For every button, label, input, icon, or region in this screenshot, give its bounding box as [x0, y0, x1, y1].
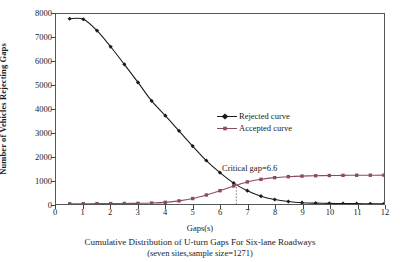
y-axis-tick-labels: 010002000300040005000600070008000	[16, 13, 52, 205]
data-point-marker	[259, 178, 262, 181]
data-point-marker	[245, 189, 249, 193]
x-axis-tick-labels: 0123456789101112	[55, 206, 385, 220]
x-axis-title: Gaps(s)	[0, 224, 400, 234]
y-tick-label: 5000	[18, 81, 52, 90]
x-tick-label: 9	[291, 208, 315, 217]
data-point-marker	[355, 174, 358, 177]
data-point-marker	[287, 175, 290, 178]
critical-gap-annotation: Critical gap=6.6	[222, 164, 277, 173]
chart-legend: Rejected curve Accepted curve	[217, 110, 292, 135]
data-point-marker	[81, 17, 85, 21]
legend-label-accepted: Accepted curve	[239, 122, 292, 134]
data-point-marker	[123, 202, 126, 204]
legend-item-accepted: Accepted curve	[217, 122, 292, 134]
y-tick-label: 3000	[18, 129, 52, 138]
data-point-marker	[68, 202, 71, 204]
data-point-marker	[82, 202, 85, 204]
x-tick-label: 4	[153, 208, 177, 217]
data-point-marker	[68, 17, 72, 21]
data-point-marker	[164, 201, 167, 204]
x-tick-label: 3	[126, 208, 150, 217]
data-point-marker	[259, 194, 263, 198]
data-point-marker	[246, 180, 249, 183]
data-point-marker	[286, 199, 290, 203]
plot-canvas	[56, 14, 384, 204]
data-point-marker	[382, 202, 384, 204]
chart-figure: Number of Vehicles Rejecting Gaps 010002…	[0, 0, 400, 262]
figure-caption: Cumulative Distribution of U-turn Gaps F…	[0, 236, 400, 260]
data-point-marker	[109, 202, 112, 204]
x-tick-label: 12	[373, 208, 397, 217]
data-point-marker	[314, 201, 318, 204]
x-tick-label: 7	[236, 208, 260, 217]
y-tick-label: 2000	[18, 153, 52, 162]
data-point-marker	[368, 202, 372, 204]
x-tick-label: 8	[263, 208, 287, 217]
y-axis-title: Number of Vehicles Rejecting Gaps	[0, 0, 8, 16]
x-tick-label: 6	[208, 208, 232, 217]
data-point-marker	[273, 176, 276, 179]
x-tick-label: 0	[43, 208, 67, 217]
data-point-marker	[150, 201, 153, 204]
data-point-marker	[328, 174, 331, 177]
data-point-marker	[341, 174, 344, 177]
x-tick-label: 2	[98, 208, 122, 217]
y-tick-label: 7000	[18, 33, 52, 42]
caption-line-2: (seven sites,sample size=1271)	[0, 248, 400, 259]
data-point-marker	[314, 174, 317, 177]
series-line	[70, 175, 384, 204]
legend-marker-rejected-icon	[217, 112, 237, 121]
legend-marker-accepted-icon	[217, 124, 237, 133]
legend-label-rejected: Rejected curve	[239, 110, 290, 122]
caption-line-1: Cumulative Distribution of U-turn Gaps F…	[0, 236, 400, 248]
data-point-marker	[273, 197, 277, 201]
data-point-marker	[300, 174, 303, 177]
data-point-marker	[355, 202, 359, 204]
x-tick-label: 11	[346, 208, 370, 217]
data-point-marker	[232, 184, 235, 187]
data-point-marker	[95, 202, 98, 204]
data-point-marker	[191, 197, 194, 200]
y-tick-label: 8000	[18, 9, 52, 18]
data-point-marker	[341, 201, 345, 204]
y-tick-label: 4000	[18, 105, 52, 114]
x-tick-label: 5	[181, 208, 205, 217]
x-tick-label: 1	[71, 208, 95, 217]
y-tick-label: 6000	[18, 57, 52, 66]
plot-area	[55, 13, 385, 205]
legend-item-rejected: Rejected curve	[217, 110, 292, 122]
data-point-marker	[177, 199, 180, 202]
data-point-marker	[369, 174, 372, 177]
data-point-marker	[136, 202, 139, 204]
data-point-marker	[218, 189, 221, 192]
data-point-marker	[327, 201, 331, 204]
y-axis-title-text: Number of Vehicles Rejecting Gaps	[0, 16, 8, 202]
data-point-marker	[205, 193, 208, 196]
data-point-marker	[382, 173, 384, 176]
x-tick-label: 10	[318, 208, 342, 217]
y-tick-label: 1000	[18, 177, 52, 186]
data-point-marker	[300, 201, 304, 204]
